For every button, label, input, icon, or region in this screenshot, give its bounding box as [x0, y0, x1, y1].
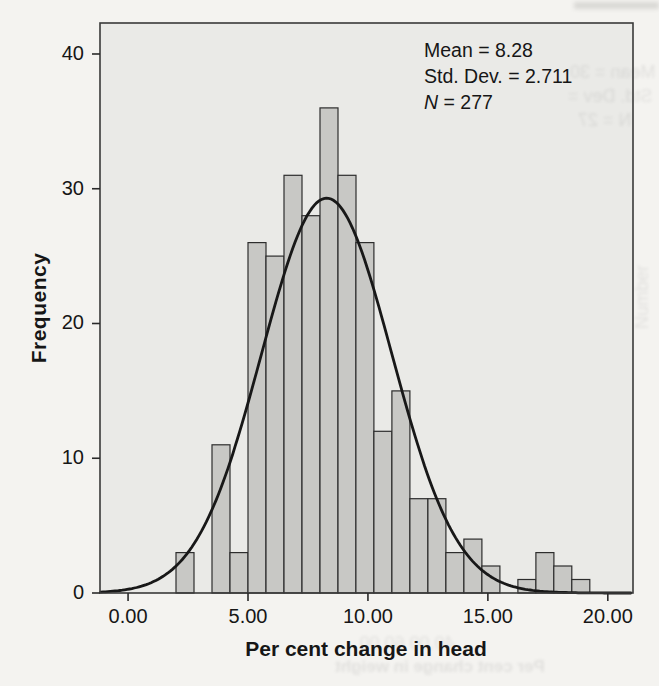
y-axis-title: Frequency — [27, 253, 51, 364]
histogram-bar — [554, 566, 572, 593]
histogram-bar — [374, 431, 392, 593]
x-tick-label: 5.00 — [206, 605, 290, 628]
y-tick-label: 0 — [36, 581, 84, 604]
stat-line: Mean = 8.28 — [424, 37, 572, 63]
histogram-bar — [284, 175, 302, 593]
stat-text: Mean = 8.28 — [424, 39, 533, 61]
stat-text: = 277 — [438, 91, 493, 113]
x-tick-label: 20.00 — [566, 605, 650, 628]
stat-line: Std. Dev. = 2.711 — [424, 63, 572, 89]
scan-smudge — [574, 2, 659, 9]
histogram-bar — [302, 216, 320, 593]
histogram-bar — [338, 175, 356, 593]
y-tick-label: 30 — [36, 177, 84, 200]
histogram-bar — [248, 243, 266, 593]
histogram-bar — [230, 553, 248, 593]
histogram-bar — [410, 499, 428, 593]
x-tick-label: 10.00 — [326, 605, 410, 628]
histogram-bar — [536, 553, 554, 593]
stat-prefix: N — [424, 91, 438, 113]
histogram-figure: 010203040 0.005.0010.0015.0020.00 Freque… — [0, 0, 659, 686]
histogram-bar — [572, 580, 590, 594]
histogram-bar — [356, 243, 374, 593]
histogram-bar — [176, 553, 194, 593]
y-tick-label: 10 — [36, 446, 84, 469]
histogram-bar — [392, 391, 410, 593]
y-tick-label: 40 — [36, 42, 84, 65]
histogram-bar — [446, 553, 464, 593]
x-tick-label: 15.00 — [446, 605, 530, 628]
stat-line: N = 277 — [424, 89, 572, 115]
x-tick-label: 0.00 — [86, 605, 170, 628]
histogram-bar — [320, 108, 338, 593]
stats-annotation: Mean = 8.28Std. Dev. = 2.711N = 277 — [424, 37, 572, 115]
stat-text: Std. Dev. = 2.711 — [424, 65, 572, 87]
x-axis-title: Per cent change in head — [166, 637, 566, 661]
